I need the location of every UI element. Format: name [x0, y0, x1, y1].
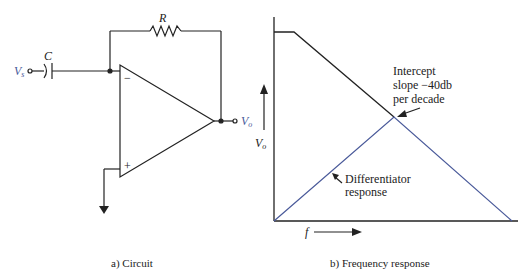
diagram-canvas: R C Vs Vo − + a) Circuit Vo f Intercept … [0, 0, 526, 277]
noninverting-input-sign: + [124, 159, 131, 173]
intercept-arrow-icon [397, 110, 407, 117]
circuit [28, 26, 237, 206]
ground-arrow-icon [99, 206, 109, 214]
input-label: Vs [14, 64, 24, 79]
resistor-label: R [158, 11, 167, 25]
capacitor-curved-plate [44, 64, 47, 78]
inverting-input-sign: − [124, 71, 131, 85]
output-label: Vo [241, 114, 252, 129]
resistor [150, 26, 181, 36]
x-axis-label: f [305, 225, 310, 239]
open-loop-curve [274, 32, 394, 117]
input-terminal [28, 69, 32, 73]
y-axis-label: Vo [255, 136, 266, 151]
f-right-arrow-icon [352, 228, 362, 236]
differentiator-response-curve [274, 117, 512, 221]
output-terminal [233, 119, 237, 123]
vo-up-arrow-icon [260, 84, 268, 94]
intercept-annotation-line2: slope −40db [393, 78, 452, 92]
output-junction-dot [219, 119, 223, 123]
circuit-caption: a) Circuit [111, 257, 153, 270]
intercept-annotation-line3: per decade [393, 92, 445, 106]
differentiator-annotation-line2: response [345, 185, 387, 199]
capacitor-label: C [44, 49, 53, 63]
differentiator-annotation-line1: Differentiator [345, 172, 411, 186]
graph-caption: b) Frequency response [330, 257, 430, 270]
intercept-annotation-line1: Intercept [393, 64, 436, 78]
op-amp [120, 65, 214, 177]
